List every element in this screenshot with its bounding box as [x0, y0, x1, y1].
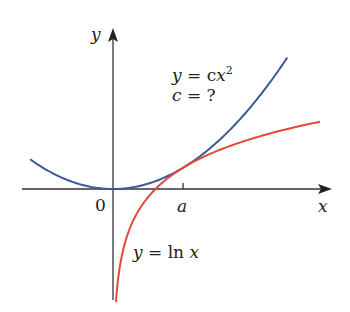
parabola-eq-c: = c [182, 65, 217, 85]
origin-label: 0 [95, 195, 106, 215]
c-eq: = ? [182, 85, 216, 105]
ln-eq-y: y [132, 242, 143, 262]
c-var: c [172, 85, 182, 105]
parabola-curve [30, 58, 287, 189]
c-question: c = ? [172, 85, 216, 105]
parabola-eq-exponent: 2 [226, 64, 233, 77]
parabola-equation: y = cx2 [171, 64, 233, 85]
ln-equation: y = ln x [132, 242, 199, 262]
ln-eq-text: = ln [143, 242, 190, 262]
tick-a-label: a [177, 196, 187, 216]
parabola-eq-x: x [216, 65, 226, 85]
ln-curve [116, 122, 320, 302]
ln-eq-x: x [189, 242, 199, 262]
y-axis-label: y [90, 24, 101, 44]
graph: y x 0 a y = cx2 c = ? y = ln x [0, 0, 350, 312]
x-axis-label: x [318, 196, 328, 216]
parabola-eq-y: y [171, 65, 182, 85]
